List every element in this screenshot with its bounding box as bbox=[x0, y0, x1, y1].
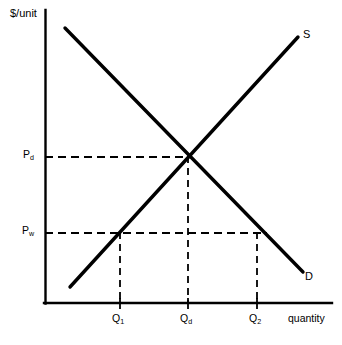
quantity-d-label-sub: d bbox=[188, 318, 192, 326]
demand-curve-label: D bbox=[305, 271, 313, 282]
quantity-d-label-base: Q bbox=[180, 312, 188, 324]
price-world-label-base: P bbox=[22, 224, 29, 236]
supply-curve bbox=[70, 37, 298, 287]
price-world-label-sub: w bbox=[29, 230, 34, 238]
supply-demand-chart: $/unit S D Pd Pw Q1 Qd Q2 quantity bbox=[0, 0, 342, 345]
x-axis-title: quantity bbox=[288, 313, 325, 324]
supply-curve-label: S bbox=[303, 29, 310, 40]
quantity-d-label: Qd bbox=[180, 313, 192, 324]
demand-curve bbox=[65, 28, 303, 272]
y-axis-title: $/unit bbox=[10, 8, 37, 19]
quantity-2-label-sub: 2 bbox=[257, 318, 261, 326]
quantity-1-label-sub: 1 bbox=[120, 318, 124, 326]
chart-canvas bbox=[0, 0, 342, 345]
price-domestic-label-base: P bbox=[23, 148, 30, 160]
quantity-1-label-base: Q bbox=[112, 312, 120, 324]
quantity-2-label-base: Q bbox=[249, 312, 257, 324]
price-domestic-label: Pd bbox=[23, 149, 34, 160]
price-domestic-label-sub: d bbox=[30, 154, 34, 162]
quantity-1-label: Q1 bbox=[112, 313, 124, 324]
price-world-label: Pw bbox=[22, 225, 34, 236]
quantity-2-label: Q2 bbox=[249, 313, 261, 324]
